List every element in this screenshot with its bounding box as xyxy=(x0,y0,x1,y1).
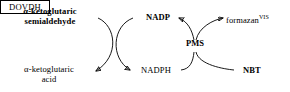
arrow-nbt-to-pms xyxy=(196,52,234,70)
formazan-text: formazan xyxy=(226,15,259,25)
product-line-2: acid xyxy=(42,74,57,84)
substrate-label: α-ketoglutaric semialdehyde xyxy=(4,6,96,26)
product-label: α-ketoglutaric acid xyxy=(2,64,96,84)
substrate-line-1: α-ketoglutaric xyxy=(23,6,76,16)
pms-label: PMS xyxy=(178,39,212,49)
arrow-pms-to-formazan xyxy=(196,18,223,40)
nadph-label: NADPH xyxy=(133,66,179,76)
formazan-superscript: VIS xyxy=(259,14,269,20)
substrate-line-2: semialdehyde xyxy=(25,16,76,26)
nbt-label: NBT xyxy=(237,66,267,76)
arrow-nadph-to-pms xyxy=(181,52,194,70)
product-line-1: α-ketoglutaric xyxy=(24,64,74,74)
reaction-scheme-diagram: α-ketoglutaric semialdehyde α-ketoglutar… xyxy=(0,0,290,92)
arrow-pms-to-nadp xyxy=(179,18,194,40)
arrow-nadp-to-nadph xyxy=(116,18,133,70)
nadp-label: NADP xyxy=(138,13,178,23)
arrow-substrate-to-product xyxy=(96,18,113,71)
formazan-label: formazanVIS xyxy=(226,13,288,25)
